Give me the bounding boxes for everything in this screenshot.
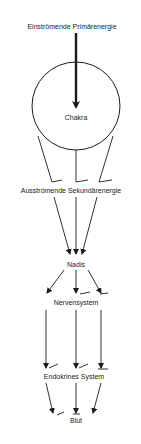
primary-energy-label: Einströmende Primärenergie: [27, 23, 116, 31]
secondary-energy-label: Ausströmende Sekundärenergie: [21, 187, 121, 195]
nadis-to-nervous-arrows: [47, 270, 108, 294]
energy-flow-diagram: Einströmende Primärenergie Chakra Ausstr…: [0, 0, 141, 444]
chakra-to-secondary-lines: [38, 136, 113, 182]
blood-label: Blut: [70, 417, 82, 425]
chakra-label: Chakra: [65, 114, 88, 122]
nervous-system-label: Nervensystem: [54, 299, 99, 307]
nadis-label: Nadis: [67, 261, 85, 269]
endocrine-to-blood-arrows: [46, 383, 101, 415]
endocrine-system-label: Endokrines System: [44, 373, 104, 381]
secondary-to-nadis-arrows: [54, 197, 97, 254]
nervous-to-endocrine-arrows: [46, 310, 108, 369]
